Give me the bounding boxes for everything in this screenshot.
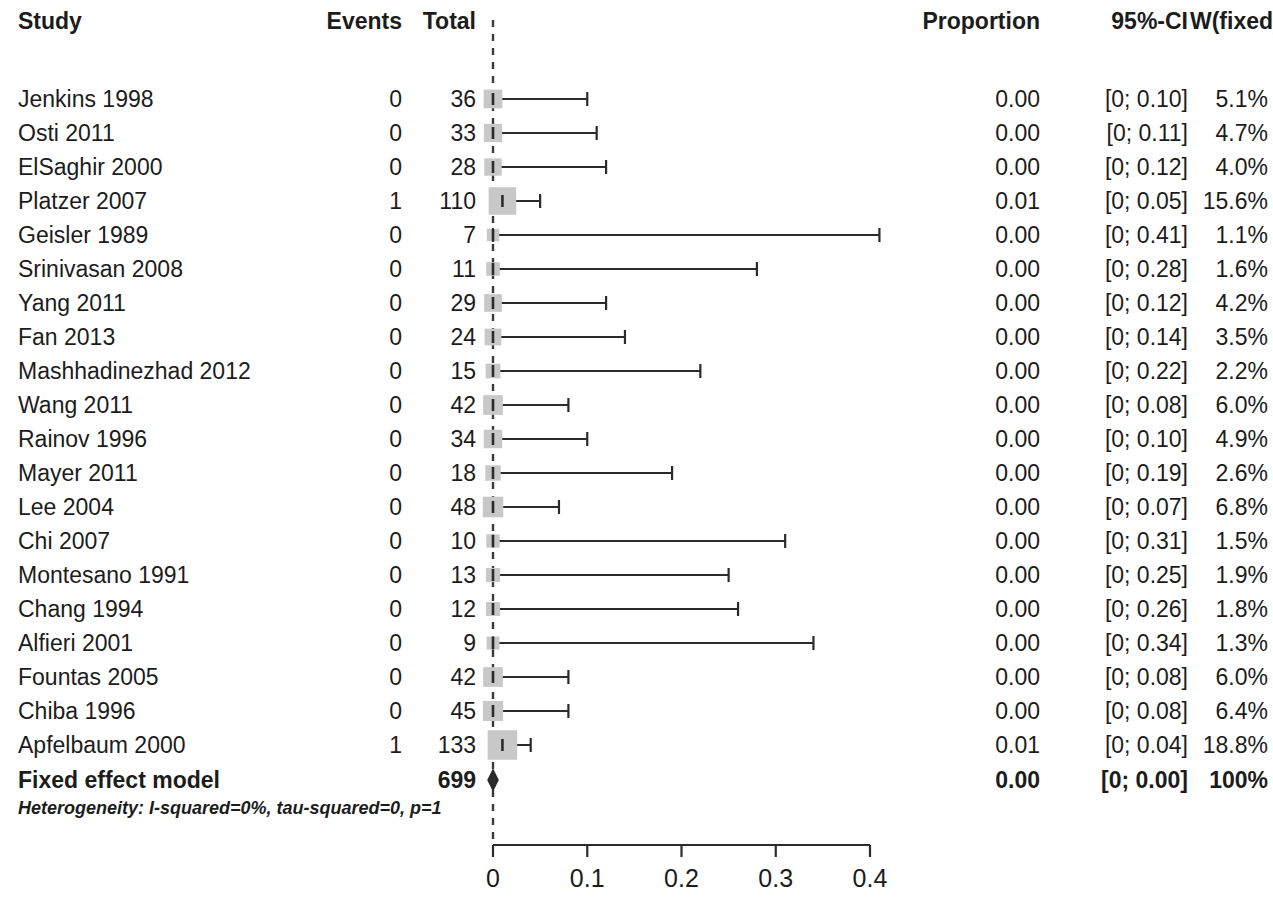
row-ci: [0; 0.28] — [1048, 254, 1188, 284]
row-total: 45 — [404, 696, 476, 726]
row-weight: 4.2% — [1190, 288, 1268, 318]
row-proportion: 0.01 — [880, 730, 1040, 760]
row-ci: [0; 0.12] — [1048, 288, 1188, 318]
row-events: 1 — [250, 186, 402, 216]
row-ci: [0; 0.08] — [1048, 662, 1188, 692]
row-proportion: 0.00 — [880, 628, 1040, 658]
row-total: 33 — [404, 118, 476, 148]
row-total: 110 — [404, 186, 476, 216]
table-row: Rainov 19960340.00[0; 0.10]4.9% — [0, 424, 1273, 454]
row-study-name: Jenkins 1998 — [18, 84, 154, 114]
row-weight: 4.9% — [1190, 424, 1268, 454]
row-proportion: 0.00 — [880, 356, 1040, 386]
row-proportion: 0.00 — [880, 560, 1040, 590]
row-ci: [0; 0.25] — [1048, 560, 1188, 590]
row-total: 10 — [404, 526, 476, 556]
row-total: 12 — [404, 594, 476, 624]
row-study-name: Chang 1994 — [18, 594, 143, 624]
row-study-name: Srinivasan 2008 — [18, 254, 183, 284]
row-events: 0 — [250, 560, 402, 590]
row-study-name: Montesano 1991 — [18, 560, 189, 590]
row-proportion: 0.00 — [880, 254, 1040, 284]
row-total: 15 — [404, 356, 476, 386]
column-header-study: Study — [18, 6, 82, 36]
x-axis-tick-label: 0.3 — [758, 864, 793, 892]
column-header-weight: W(fixed) — [1190, 6, 1268, 36]
row-events: 0 — [250, 84, 402, 114]
row-ci: [0; 0.08] — [1048, 390, 1188, 420]
table-row: Osti 20110330.00[0; 0.11]4.7% — [0, 118, 1273, 148]
row-events: 0 — [250, 152, 402, 182]
row-ci: [0; 0.05] — [1048, 186, 1188, 216]
row-total: 7 — [404, 220, 476, 250]
row-weight: 5.1% — [1190, 84, 1268, 114]
row-ci: [0; 0.08] — [1048, 696, 1188, 726]
summary-proportion: 0.00 — [880, 765, 1040, 795]
row-total: 36 — [404, 84, 476, 114]
row-proportion: 0.00 — [880, 458, 1040, 488]
x-axis-tick-label: 0 — [486, 864, 500, 892]
row-study-name: Chi 2007 — [18, 526, 110, 556]
table-row: Montesano 19910130.00[0; 0.25]1.9% — [0, 560, 1273, 590]
row-ci: [0; 0.26] — [1048, 594, 1188, 624]
table-row: Mayer 20110180.00[0; 0.19]2.6% — [0, 458, 1273, 488]
row-ci: [0; 0.41] — [1048, 220, 1188, 250]
row-ci: [0; 0.11] — [1048, 118, 1188, 148]
row-proportion: 0.01 — [880, 186, 1040, 216]
summary-ci: [0; 0.00] — [1048, 765, 1188, 795]
row-total: 28 — [404, 152, 476, 182]
row-study-name: Yang 2011 — [18, 288, 126, 318]
table-row: Fan 20130240.00[0; 0.14]3.5% — [0, 322, 1273, 352]
row-events: 0 — [250, 254, 402, 284]
row-weight: 6.0% — [1190, 662, 1268, 692]
row-events: 0 — [250, 356, 402, 386]
table-header-row: Study Events Total Proportion 95%-CI W(f… — [0, 6, 1273, 36]
row-proportion: 0.00 — [880, 662, 1040, 692]
table-row: Platzer 200711100.01[0; 0.05]15.6% — [0, 186, 1273, 216]
row-weight: 6.8% — [1190, 492, 1268, 522]
row-events: 0 — [250, 696, 402, 726]
row-weight: 1.3% — [1190, 628, 1268, 658]
table-row: Chiba 19960450.00[0; 0.08]6.4% — [0, 696, 1273, 726]
row-ci: [0; 0.34] — [1048, 628, 1188, 658]
table-row: Chi 20070100.00[0; 0.31]1.5% — [0, 526, 1273, 556]
row-ci: [0; 0.07] — [1048, 492, 1188, 522]
row-weight: 6.0% — [1190, 390, 1268, 420]
summary-label: Fixed effect model — [18, 765, 220, 795]
row-ci: [0; 0.19] — [1048, 458, 1188, 488]
row-study-name: Fan 2013 — [18, 322, 115, 352]
summary-row: Fixed effect model 699 0.00 [0; 0.00] 10… — [0, 765, 1273, 795]
row-proportion: 0.00 — [880, 118, 1040, 148]
x-axis-tick-label: 0.1 — [570, 864, 605, 892]
row-events: 0 — [250, 628, 402, 658]
row-proportion: 0.00 — [880, 594, 1040, 624]
row-study-name: Mayer 2011 — [18, 458, 138, 488]
row-proportion: 0.00 — [880, 390, 1040, 420]
row-proportion: 0.00 — [880, 220, 1040, 250]
row-events: 1 — [250, 730, 402, 760]
row-events: 0 — [250, 322, 402, 352]
row-study-name: Geisler 1989 — [18, 220, 148, 250]
row-study-name: ElSaghir 2000 — [18, 152, 163, 182]
row-total: 133 — [404, 730, 476, 760]
row-weight: 1.9% — [1190, 560, 1268, 590]
row-ci: [0; 0.04] — [1048, 730, 1188, 760]
table-row: Mashhadinezhad 20120150.00[0; 0.22]2.2% — [0, 356, 1273, 386]
forest-plot: Study Events Total Proportion 95%-CI W(f… — [0, 0, 1273, 897]
table-row: Yang 20110290.00[0; 0.12]4.2% — [0, 288, 1273, 318]
row-weight: 2.6% — [1190, 458, 1268, 488]
table-row: Alfieri 2001090.00[0; 0.34]1.3% — [0, 628, 1273, 658]
row-events: 0 — [250, 458, 402, 488]
row-total: 13 — [404, 560, 476, 590]
x-axis-tick-label: 0.4 — [853, 864, 888, 892]
row-study-name: Lee 2004 — [18, 492, 114, 522]
row-total: 42 — [404, 390, 476, 420]
table-row: Apfelbaum 200011330.01[0; 0.04]18.8% — [0, 730, 1273, 760]
row-proportion: 0.00 — [880, 696, 1040, 726]
row-weight: 1.1% — [1190, 220, 1268, 250]
row-study-name: Mashhadinezhad 2012 — [18, 356, 251, 386]
row-total: 24 — [404, 322, 476, 352]
row-events: 0 — [250, 390, 402, 420]
row-proportion: 0.00 — [880, 322, 1040, 352]
row-study-name: Rainov 1996 — [18, 424, 147, 454]
